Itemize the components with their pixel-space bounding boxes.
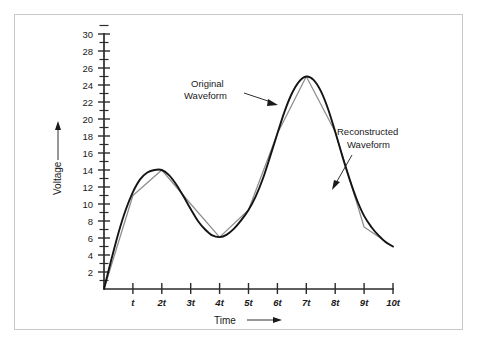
y-tick-label: 28 xyxy=(82,46,93,57)
x-tick-label: 9t xyxy=(360,297,369,308)
y-axis-title: Voltage xyxy=(52,161,63,195)
y-tick-label: 14 xyxy=(82,165,93,176)
annotation-reconstructed-waveform-line2: Waveform xyxy=(347,139,390,150)
waveform-sampling-chart: 24681012141618202224262830 t2t3t4t5t6t7t… xyxy=(0,0,479,346)
y-axis-title-group: Voltage xyxy=(52,121,63,195)
y-tick-label: 20 xyxy=(82,114,93,125)
figure-root: 24681012141618202224262830 t2t3t4t5t6t7t… xyxy=(0,0,479,346)
y-axis-tick-labels: 24681012141618202224262830 xyxy=(82,29,93,278)
x-tick-label: 6t xyxy=(273,297,282,308)
reconstructed-waveform-line xyxy=(104,77,393,290)
annotation-original-waveform-line2: Waveform xyxy=(184,90,227,101)
y-tick-label: 26 xyxy=(82,63,93,74)
y-tick-label: 8 xyxy=(88,216,93,227)
y-tick-label: 12 xyxy=(82,182,93,193)
x-axis-right-arrow-icon xyxy=(273,317,282,323)
y-tick-label: 10 xyxy=(82,199,93,210)
y-tick-label: 24 xyxy=(82,80,93,91)
x-axis-tick-labels: t2t3t4t5t6t7t8t9t10t xyxy=(131,297,400,308)
x-axis-title-group: Time xyxy=(214,315,282,326)
x-axis-title: Time xyxy=(214,315,236,326)
x-tick-label: 4t xyxy=(214,297,224,308)
axes-group xyxy=(104,33,394,289)
annotation-original-waveform-line1: Original xyxy=(191,78,224,89)
y-tick-label: 22 xyxy=(82,97,93,108)
x-tick-label: 7t xyxy=(302,297,311,308)
x-tick-label: 2t xyxy=(157,297,167,308)
x-tick-label: 10t xyxy=(386,297,401,308)
y-tick-label: 18 xyxy=(82,131,93,142)
annotation-original-waveform-arrow-icon xyxy=(267,99,278,106)
y-tick-label: 4 xyxy=(88,250,93,261)
x-tick-label: 3t xyxy=(186,297,195,308)
x-tick-label: 8t xyxy=(331,297,340,308)
annotation-original-waveform: Original Waveform xyxy=(184,78,278,106)
y-axis-up-arrow-icon xyxy=(55,121,61,130)
x-tick-label: t xyxy=(131,297,135,308)
y-tick-label: 30 xyxy=(82,29,93,40)
x-tick-label: 5t xyxy=(244,297,253,308)
annotation-reconstructed-waveform-arrow-icon xyxy=(332,180,340,190)
annotation-original-waveform-leader xyxy=(244,93,271,102)
y-tick-label: 2 xyxy=(88,267,93,278)
y-tick-label: 16 xyxy=(82,148,93,159)
annotation-reconstructed-waveform-line1: Reconstructed xyxy=(337,126,398,137)
y-tick-label: 6 xyxy=(88,233,93,244)
